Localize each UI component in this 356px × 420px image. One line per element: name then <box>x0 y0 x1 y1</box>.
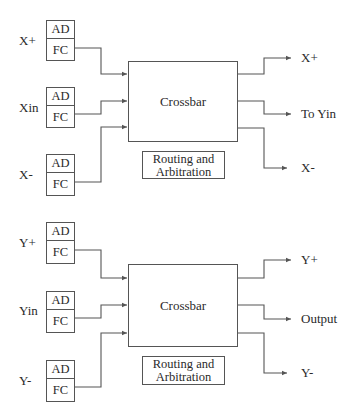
x-plus-input-line <box>74 48 127 74</box>
x-minus-input-line <box>74 127 127 182</box>
input-label-yin: Yin <box>19 304 38 318</box>
routing-arbitration-line2: Arbitration <box>143 166 224 179</box>
xin-input-line <box>74 101 127 114</box>
input-buffer-y-plus: AD FC <box>46 222 75 264</box>
to-yin-output-line <box>237 101 291 114</box>
address-decoder: AD <box>47 292 74 310</box>
y-minus-input-line <box>74 333 127 387</box>
x-minus-output-line <box>237 128 287 168</box>
output-output-line <box>237 305 291 319</box>
input-label-y-minus: Y- <box>19 374 31 388</box>
routing-arbitration-y: Routing and Arbitration <box>142 356 225 385</box>
input-buffer-x-plus: AD FC <box>46 20 75 61</box>
address-decoder: AD <box>47 21 74 39</box>
flow-control: FC <box>47 106 74 128</box>
input-buffer-x-minus: AD FC <box>46 154 75 196</box>
y-plus-input-line <box>74 250 127 278</box>
input-label-xin: Xin <box>19 101 39 115</box>
address-decoder: AD <box>47 155 74 173</box>
y-plus-output-line <box>237 260 291 278</box>
flow-control: FC <box>47 173 74 195</box>
input-buffer-yin: AD FC <box>46 291 75 333</box>
output-label-to-yin: To Yin <box>301 107 336 121</box>
flow-control: FC <box>47 39 74 61</box>
flow-control: FC <box>47 241 74 263</box>
routing-arbitration-line2: Arbitration <box>143 371 224 384</box>
flow-control: FC <box>47 379 74 401</box>
routing-arbitration-x: Routing and Arbitration <box>142 151 225 179</box>
output-label-x-plus: X+ <box>301 51 318 65</box>
crossbar-label: Crossbar <box>160 94 206 110</box>
crossbar-label: Crossbar <box>160 298 206 314</box>
output-label-x-minus: X- <box>301 161 315 175</box>
input-buffer-xin: AD FC <box>46 87 75 128</box>
x-plus-output-line <box>237 58 291 74</box>
flow-control: FC <box>47 310 74 332</box>
address-decoder: AD <box>47 223 74 241</box>
yin-input-line <box>74 305 127 318</box>
input-label-y-plus: Y+ <box>19 236 36 250</box>
output-label-y-minus: Y- <box>301 366 313 380</box>
output-label-output: Output <box>301 312 337 326</box>
output-label-y-plus: Y+ <box>301 253 318 267</box>
crossbar-x: Crossbar <box>128 61 238 142</box>
input-label-x-minus: X- <box>19 168 33 182</box>
input-buffer-y-minus: AD FC <box>46 360 75 402</box>
address-decoder: AD <box>47 88 74 106</box>
crossbar-y: Crossbar <box>128 264 238 347</box>
input-label-x-plus: X+ <box>19 34 36 48</box>
address-decoder: AD <box>47 361 74 379</box>
y-minus-output-line <box>237 333 287 373</box>
